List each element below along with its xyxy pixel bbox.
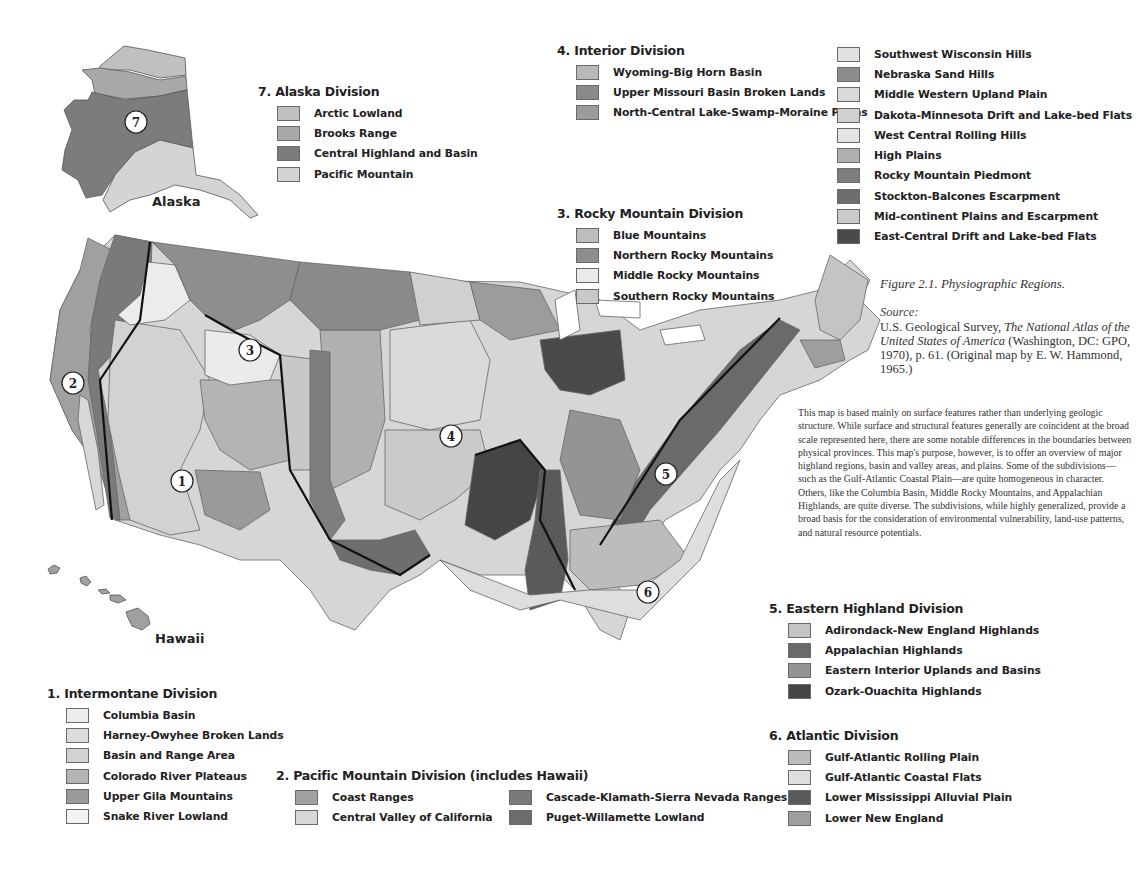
legend-title: 6. Atlantic Division	[769, 728, 1012, 743]
legend-label: Brooks Range	[314, 127, 397, 140]
legend-item: Coast Ranges	[295, 787, 509, 807]
legend-swatch	[509, 810, 532, 825]
legend-label: Stockton-Balcones Escarpment	[874, 190, 1060, 203]
legend-label: Lower Mississippi Alluvial Plain	[825, 791, 1012, 804]
legend-label: Ozark-Ouachita Highlands	[825, 685, 981, 698]
legend-label: East-Central Drift and Lake-bed Flats	[874, 230, 1097, 243]
legend-swatch	[576, 65, 599, 80]
legend-label: Harney-Owyhee Broken Lands	[103, 729, 284, 742]
region-upper-missouri	[290, 262, 420, 330]
legend-swatch	[66, 789, 89, 804]
legend-swatch	[837, 47, 860, 62]
legend-swatch	[576, 248, 599, 263]
legend-item: Adirondack-New England Highlands	[788, 620, 1041, 640]
legend-alaska-division: 7. Alaska Division Arctic LowlandBrooks …	[258, 84, 478, 184]
legend-swatch	[66, 728, 89, 743]
legend-label: Columbia Basin	[103, 709, 195, 722]
legend-item: Southern Rocky Mountains	[576, 286, 774, 306]
legend-item: East-Central Drift and Lake-bed Flats	[837, 227, 1132, 247]
legend-label: Northern Rocky Mountains	[613, 249, 773, 262]
legend-swatch	[277, 167, 300, 182]
legend-label: Rocky Mountain Piedmont	[874, 169, 1031, 182]
legend-swatch	[509, 790, 532, 805]
division-marker-6: 6	[637, 581, 659, 603]
legend-item: Upper Missouri Basin Broken Lands	[576, 82, 868, 102]
legend-label: Wyoming-Big Horn Basin	[613, 66, 762, 79]
legend-item: Middle Western Upland Plain	[837, 85, 1132, 105]
figure-caption: Figure 2.1. Physiographic Regions. Sourc…	[880, 276, 1135, 376]
legend-label: Dakota-Minnesota Drift and Lake-bed Flat…	[874, 109, 1132, 122]
legend-swatch	[66, 769, 89, 784]
region-dakota-minnesota	[410, 272, 480, 325]
legend-label: Appalachian Highlands	[825, 644, 963, 657]
legend-label: Adirondack-New England Highlands	[825, 624, 1039, 637]
legend-item: Pacific Mountain	[277, 164, 478, 184]
legend-swatch	[837, 229, 860, 244]
legend-label: Arctic Lowland	[314, 107, 402, 120]
legend-item: Northern Rocky Mountains	[576, 245, 774, 265]
legend-swatch	[837, 209, 860, 224]
source-label: Source:	[880, 305, 1135, 320]
division-marker-7-label: 7	[132, 116, 140, 130]
legend-swatch	[837, 87, 860, 102]
hawaii-label: Hawaii	[155, 631, 204, 646]
legend-swatch	[788, 623, 811, 638]
legend-item: Middle Rocky Mountains	[576, 266, 774, 286]
legend-item: Wyoming-Big Horn Basin	[576, 62, 868, 82]
legend-item: High Plains	[837, 145, 1132, 165]
legend-label: Basin and Range Area	[103, 749, 235, 762]
legend-label: Southern Rocky Mountains	[613, 290, 774, 303]
legend-swatch	[788, 684, 811, 699]
legend-item: Ozark-Ouachita Highlands	[788, 681, 1041, 701]
legend-item: North-Central Lake-Swamp-Moraine Plains	[576, 103, 868, 123]
legend-label: Central Valley of California	[332, 811, 493, 824]
legend-swatch	[277, 126, 300, 141]
legend-label: Snake River Lowland	[103, 810, 228, 823]
division-marker-5-label: 5	[662, 468, 670, 482]
legend-swatch	[277, 146, 300, 161]
legend-label: Eastern Interior Uplands and Basins	[825, 664, 1041, 677]
legend-label: Central Highland and Basin	[314, 147, 478, 160]
division-marker-3-label: 3	[246, 344, 254, 358]
legend-atlantic-division: 6. Atlantic Division Gulf-Atlantic Rolli…	[769, 728, 1012, 828]
division-marker-2: 2	[62, 372, 84, 394]
legend-item: Brooks Range	[277, 123, 478, 143]
legend-label: Gulf-Atlantic Rolling Plain	[825, 751, 979, 764]
legend-label: Middle Rocky Mountains	[613, 269, 759, 282]
legend-label: Gulf-Atlantic Coastal Flats	[825, 771, 982, 784]
legend-title: 4. Interior Division	[557, 43, 868, 58]
legend-swatch	[576, 228, 599, 243]
source-citation: U.S. Geological Survey, The National Atl…	[880, 320, 1135, 376]
division-marker-1: 1	[171, 470, 193, 492]
legend-label: Lower New England	[825, 812, 943, 825]
legend-label: Colorado River Plateaus	[103, 770, 247, 783]
legend-item: Central Highland and Basin	[277, 144, 478, 164]
legend-item: Rocky Mountain Piedmont	[837, 166, 1132, 186]
legend-item: Colorado River Plateaus	[66, 766, 284, 786]
legend-item: Basin and Range Area	[66, 746, 284, 766]
legend-item: Snake River Lowland	[66, 806, 284, 826]
legend-swatch	[788, 643, 811, 658]
legend-label: West Central Rolling Hills	[874, 129, 1026, 142]
legend-title: 2. Pacific Mountain Division (includes H…	[276, 768, 787, 783]
hawaii-inset	[48, 565, 150, 630]
legend-title: 5. Eastern Highland Division	[769, 601, 1041, 616]
alaska-inset: 7	[62, 46, 258, 218]
legend-title: 7. Alaska Division	[258, 84, 478, 99]
legend-label: Blue Mountains	[613, 229, 706, 242]
figure-title: Figure 2.1. Physiographic Regions.	[880, 276, 1135, 292]
legend-swatch	[837, 148, 860, 163]
legend-swatch	[788, 663, 811, 678]
legend-item: Arctic Lowland	[277, 103, 478, 123]
legend-swatch	[576, 268, 599, 283]
legend-label: Coast Ranges	[332, 791, 414, 804]
legend-item: Blue Mountains	[576, 225, 774, 245]
legend-item: Cascade-Klamath-Sierra Nevada Ranges	[509, 787, 787, 807]
division-marker-5: 5	[655, 463, 677, 485]
legend-label: Pacific Mountain	[314, 168, 413, 181]
legend-item: Dakota-Minnesota Drift and Lake-bed Flat…	[837, 105, 1132, 125]
legend-swatch	[576, 85, 599, 100]
legend-item: Stockton-Balcones Escarpment	[837, 186, 1132, 206]
division-marker-4-label: 4	[447, 430, 455, 444]
legend-item: Nebraska Sand Hills	[837, 64, 1132, 84]
